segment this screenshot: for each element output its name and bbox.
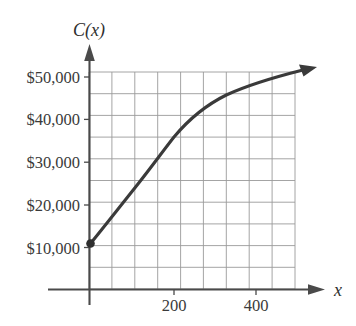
- x-axis-tick-label: 400: [244, 296, 269, 315]
- y-axis-tick-label: $50,000: [26, 68, 80, 87]
- x-axis-label: x: [333, 280, 342, 300]
- y-axis-label: C(x): [73, 20, 105, 41]
- y-axis-arrowhead: [84, 44, 95, 61]
- y-axis-tick-label: $10,000: [26, 239, 80, 258]
- x-axis-arrowhead: [308, 284, 325, 295]
- y-axis-tick-labels: $50,000 $40,000 $30,000 $20,000 $10,000: [26, 68, 80, 258]
- y-axis-tick-label: $20,000: [26, 196, 80, 215]
- grid-lines: [89, 72, 295, 289]
- cost-curve-group: [86, 65, 317, 248]
- cost-curve: [91, 70, 304, 244]
- y-axis-ticks: [84, 77, 89, 248]
- y-axis-tick-label: $30,000: [26, 153, 80, 172]
- x-axis-tick-labels: 200 400: [162, 296, 269, 315]
- curve-arrowhead: [299, 65, 317, 77]
- cost-function-graph: $50,000 $40,000 $30,000 $20,000 $10,000 …: [0, 0, 356, 326]
- x-axis-tick-label: 200: [162, 296, 187, 315]
- graph-canvas: $50,000 $40,000 $30,000 $20,000 $10,000 …: [0, 0, 356, 326]
- axes: [48, 44, 325, 305]
- y-axis-tick-label: $40,000: [26, 110, 80, 129]
- curve-start-point-marker: [86, 239, 95, 248]
